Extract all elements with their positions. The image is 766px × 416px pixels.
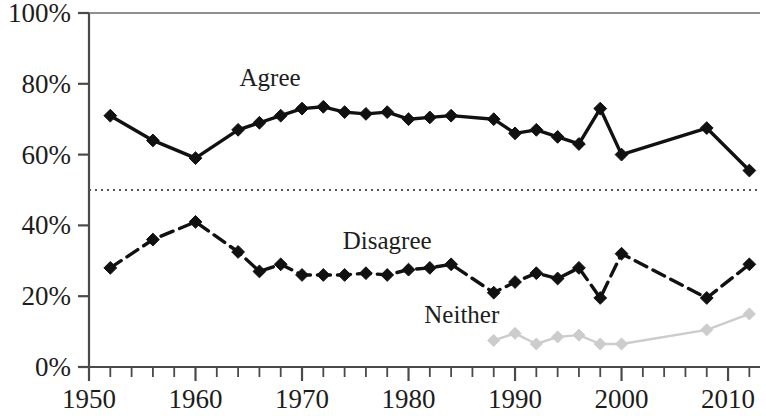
marker-agree-2000 bbox=[615, 148, 628, 161]
marker-neither-1990 bbox=[509, 327, 521, 339]
marker-agree-1992 bbox=[530, 123, 543, 136]
marker-disagree-1992 bbox=[530, 267, 543, 280]
x-axis-label-1960: 1960 bbox=[169, 386, 223, 413]
marker-agree-1968 bbox=[274, 109, 287, 122]
series-label-disagree: Disagree bbox=[343, 227, 432, 252]
marker-disagree-1972 bbox=[317, 269, 330, 282]
marker-agree-1974 bbox=[338, 106, 351, 119]
marker-neither-1996 bbox=[573, 329, 585, 341]
marker-agree-1972 bbox=[317, 100, 330, 113]
marker-disagree-1990 bbox=[509, 276, 522, 289]
marker-disagree-1994 bbox=[551, 272, 564, 285]
marker-agree-1984 bbox=[445, 109, 458, 122]
marker-neither-1988 bbox=[488, 334, 500, 346]
marker-disagree-1980 bbox=[402, 263, 415, 276]
marker-agree-1994 bbox=[551, 131, 564, 144]
y-axis-label-80%: 80% bbox=[0, 70, 71, 97]
marker-disagree-1978 bbox=[381, 269, 394, 282]
marker-neither-2008 bbox=[701, 324, 713, 336]
x-tick-marks bbox=[89, 367, 749, 381]
marker-neither-2012 bbox=[743, 308, 755, 320]
marker-disagree-1970 bbox=[296, 269, 309, 282]
y-axis-label-0%: 0% bbox=[0, 354, 71, 381]
plot-area bbox=[0, 0, 766, 416]
marker-neither-2000 bbox=[616, 338, 628, 350]
x-axis-label-2000: 2000 bbox=[595, 386, 649, 413]
marker-neither-1992 bbox=[530, 338, 542, 350]
x-axis-label-1950: 1950 bbox=[62, 386, 116, 413]
marker-agree-1976 bbox=[360, 107, 373, 120]
line-chart: 0%20%40%60%80%100% 195019601970198019902… bbox=[0, 0, 766, 416]
x-axis-label-1970: 1970 bbox=[275, 386, 329, 413]
marker-disagree-2000 bbox=[615, 247, 628, 260]
marker-agree-1982 bbox=[423, 111, 436, 124]
marker-neither-1998 bbox=[594, 338, 606, 350]
y-axis-label-100%: 100% bbox=[0, 0, 71, 27]
marker-neither-1994 bbox=[552, 331, 564, 343]
x-axis-label-1980: 1980 bbox=[382, 386, 436, 413]
marker-agree-1980 bbox=[402, 113, 415, 126]
x-axis-label-2010: 2010 bbox=[701, 386, 755, 413]
y-tick-marks bbox=[78, 13, 89, 367]
marker-disagree-1968 bbox=[274, 258, 287, 271]
x-axis-label-1990: 1990 bbox=[488, 386, 542, 413]
marker-agree-1966 bbox=[253, 116, 266, 129]
marker-disagree-1976 bbox=[360, 267, 373, 280]
marker-disagree-1982 bbox=[423, 261, 436, 274]
series-label-neither: Neither bbox=[424, 301, 499, 326]
marker-agree-1970 bbox=[296, 102, 309, 115]
marker-agree-1978 bbox=[381, 106, 394, 119]
marker-disagree-1974 bbox=[338, 269, 351, 282]
y-axis-label-20%: 20% bbox=[0, 283, 71, 310]
y-axis-label-40%: 40% bbox=[0, 212, 71, 239]
series-label-agree: Agree bbox=[240, 64, 301, 89]
y-axis-label-60%: 60% bbox=[0, 141, 71, 168]
